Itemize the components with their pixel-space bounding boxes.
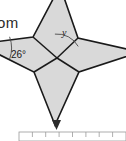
diagram-canvas: om 26° y [0,0,126,141]
angle-label-y: y [61,27,67,38]
angle-label-26: 26° [11,49,26,60]
scale-marker-icon [52,120,61,130]
geometry-figure: 26° y [0,0,126,141]
measurement-scale[interactable] [19,120,126,141]
